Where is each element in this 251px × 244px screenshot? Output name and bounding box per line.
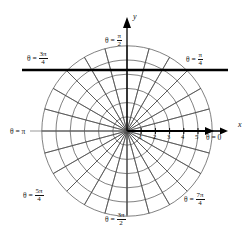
equals-symbol: = [211,134,215,142]
fraction-denominator: 4 [39,58,48,66]
theta-symbol: θ [186,56,190,64]
angle-label-three-pi-over-4: θ = 3π 4 [27,51,48,66]
angle-label-seven-pi-over-4: θ = 7π 4 [184,192,205,207]
fraction-denominator: 2 [117,219,126,227]
fraction-denominator: 2 [117,40,123,48]
x-tick-4: 4 [181,133,184,140]
angle-label-five-pi-over-4: θ = 5π 4 [23,188,44,203]
fraction-denominator: 4 [35,195,44,203]
x-axis-label: x [238,120,242,129]
y-axis-label: y [133,12,137,21]
fraction-numerator: 5π [35,188,44,195]
x-tick-5: 5 [195,133,198,140]
fraction-numerator: π [117,33,123,40]
equals-symbol: = [32,55,36,63]
angle-label-pi-over-4: θ = π 4 [186,52,203,67]
angle-label-three-pi-over-2: θ = 3π 2 [105,212,126,227]
x-tick-3: 3 [167,133,170,140]
theta-symbol: θ [184,196,188,204]
fraction-seven-pi-over-4: 7π 4 [196,192,205,207]
fraction-three-pi-over-2: 3π 2 [117,212,126,227]
equals-symbol: = [189,196,193,204]
fraction-pi-over-2: π 2 [117,33,123,48]
axes-group [30,17,228,215]
angle-label-pi: θ = π [10,127,25,135]
theta-symbol: θ [23,192,27,200]
theta-symbol: θ [206,134,210,142]
angle-value: 0 [218,134,222,142]
angle-label-pi-over-2: θ = π 2 [105,33,122,48]
fraction-numerator: 3π [117,212,126,219]
fraction-numerator: π [198,52,204,59]
y-axis-arrowhead [123,17,131,28]
equals-symbol: = [110,37,114,45]
equals-symbol: = [15,128,19,136]
x-tick-2: 2 [153,133,156,140]
theta-symbol: θ [27,55,31,63]
angle-value: π [22,128,26,136]
equals-symbol: = [110,216,114,224]
fraction-numerator: 7π [196,192,205,199]
theta-symbol: θ [105,216,109,224]
equals-symbol: = [28,192,32,200]
fraction-five-pi-over-4: 5π 4 [35,188,44,203]
fraction-denominator: 4 [196,199,205,207]
equals-symbol: = [191,56,195,64]
polar-grid-canvas [0,0,251,244]
fraction-numerator: 3π [39,51,48,58]
polar-grid-figure: y x 1 2 3 4 5 θ = 0 θ = π 4 θ = π 2 θ = … [0,0,251,244]
theta-symbol: θ [105,37,109,45]
fraction-pi-over-4: π 4 [198,52,204,67]
angle-label-theta-0: θ = 0 [206,133,221,141]
theta-symbol: θ [10,128,14,136]
x-tick-1: 1 [139,133,142,140]
fraction-denominator: 4 [198,59,204,67]
fraction-three-pi-over-4: 3π 4 [39,51,48,66]
